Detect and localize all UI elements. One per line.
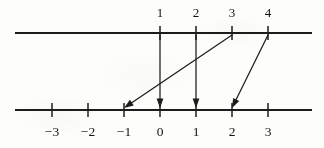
- tick-label-upper-2: 3: [229, 5, 236, 20]
- lower-tick-labels: −3−2−10123: [45, 124, 272, 139]
- arrow-4-to-2-shaft: [236, 35, 268, 101]
- number-line-mapping-figure: 1234 −3−2−10123: [0, 0, 324, 148]
- tick-label-lower-4: 1: [193, 124, 200, 139]
- upper-tick-labels: 1234: [157, 5, 272, 20]
- arrow-4-to-2: [232, 35, 268, 108]
- tick-label-upper-1: 2: [193, 5, 200, 20]
- tick-label-upper-3: 4: [265, 5, 272, 20]
- tick-label-upper-0: 1: [157, 5, 164, 20]
- diagram-canvas: 1234 −3−2−10123: [0, 0, 324, 148]
- tick-label-lower-3: 0: [157, 124, 164, 139]
- tick-label-lower-6: 3: [265, 124, 272, 139]
- arrow-1-to-0: [157, 35, 164, 108]
- arrow-2-to-1: [193, 35, 200, 108]
- mapping-arrows-group: [124, 35, 268, 108]
- arrow-2-to-1-head: [193, 99, 200, 109]
- arrow-3-to-neg1-shaft: [131, 35, 232, 104]
- tick-label-lower-1: −2: [81, 124, 95, 139]
- arrow-3-to-neg1-head: [124, 100, 134, 108]
- lower-number-line-group: −3−2−10123: [15, 103, 312, 139]
- arrow-3-to-neg1: [124, 35, 232, 108]
- tick-label-lower-2: −1: [117, 124, 131, 139]
- tick-label-lower-5: 2: [229, 124, 236, 139]
- arrow-4-to-2-head: [232, 98, 239, 108]
- arrow-1-to-0-head: [157, 99, 164, 109]
- tick-label-lower-0: −3: [45, 124, 60, 139]
